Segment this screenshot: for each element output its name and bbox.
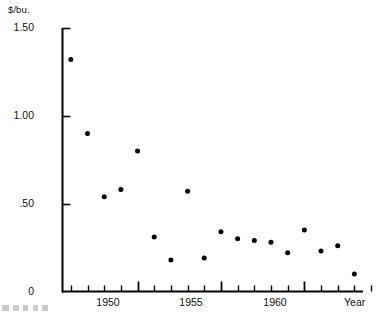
- data-point: [152, 235, 157, 240]
- data-point: [252, 238, 257, 243]
- data-point: [118, 187, 123, 192]
- page-footer-artifact: [2, 305, 48, 311]
- x-axis-title: Year: [344, 297, 365, 308]
- axis-lines: [62, 28, 363, 293]
- y-axis-ticks: [63, 29, 71, 293]
- data-point: [302, 228, 307, 233]
- data-point: [218, 229, 223, 234]
- data-point: [235, 236, 240, 241]
- data-point: [285, 250, 290, 255]
- chart-container: $/bu. 1.50 1.00 .50 0 1950 1955 1960 Yea…: [0, 0, 380, 316]
- data-point: [85, 131, 90, 136]
- data-point: [135, 148, 140, 153]
- x-tick-label: 1955: [179, 297, 202, 308]
- x-tick-label: 1960: [263, 297, 286, 308]
- data-point: [102, 194, 107, 199]
- data-point: [68, 57, 73, 62]
- plot-area: [0, 0, 380, 316]
- data-point-series: [68, 57, 357, 276]
- data-point: [319, 249, 324, 254]
- data-point: [202, 256, 207, 261]
- data-point: [335, 243, 340, 248]
- data-point: [185, 189, 190, 194]
- x-tick-label: 1950: [96, 297, 119, 308]
- x-axis-ticks: [72, 282, 372, 292]
- data-point: [352, 271, 357, 276]
- data-point: [168, 257, 173, 262]
- data-point: [269, 240, 274, 245]
